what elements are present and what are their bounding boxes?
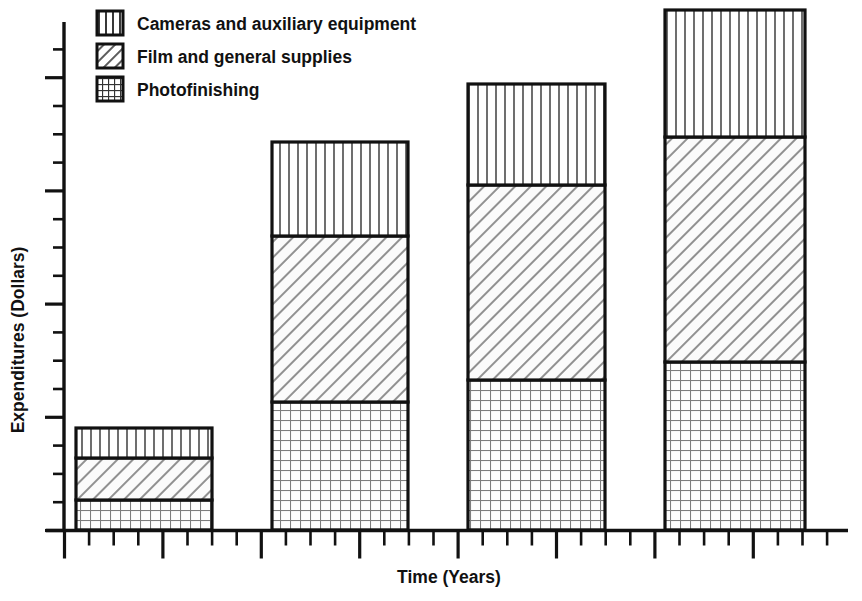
- bar-segment-cameras: [468, 84, 605, 185]
- legend-swatch-diagonal-icon: [97, 44, 123, 68]
- bar-segment-photofinishing: [272, 402, 408, 530]
- stacked-bar-chart: Cameras and auxiliary equipment Film and…: [0, 0, 862, 601]
- y-axis-title: Expenditures (Dollars): [8, 247, 28, 434]
- bar-segment-photofinishing: [468, 380, 605, 530]
- chart-legend: Cameras and auxiliary equipment Film and…: [97, 11, 416, 101]
- bar-segment-cameras: [76, 428, 212, 458]
- bar-segment-photofinishing: [76, 500, 212, 530]
- legend-label-cameras: Cameras and auxiliary equipment: [137, 14, 416, 34]
- bar-stack-year-1: [76, 428, 212, 530]
- legend-swatch-vertical-icon: [97, 11, 123, 35]
- bar-segment-film: [76, 458, 212, 500]
- legend-label-film: Film and general supplies: [137, 47, 352, 67]
- bar-segment-film: [665, 137, 805, 362]
- bar-stack-year-3: [468, 84, 605, 530]
- bar-segment-cameras: [665, 10, 805, 137]
- bar-segment-photofinishing: [665, 362, 805, 530]
- legend-item-photofinishing: Photofinishing: [97, 77, 259, 101]
- legend-swatch-grid-icon: [97, 77, 123, 101]
- legend-item-film: Film and general supplies: [97, 44, 352, 68]
- bar-segment-cameras: [272, 142, 408, 236]
- bar-stack-year-2: [272, 142, 408, 530]
- bar-segment-film: [272, 236, 408, 402]
- legend-label-photofinishing: Photofinishing: [137, 80, 259, 100]
- y-axis-ticks: [45, 49, 64, 530]
- legend-item-cameras: Cameras and auxiliary equipment: [97, 11, 416, 35]
- bar-stack-year-4: [665, 10, 805, 530]
- x-axis-ticks: [65, 531, 828, 559]
- bar-segment-film: [468, 185, 605, 380]
- chart-canvas: Cameras and auxiliary equipment Film and…: [0, 0, 862, 601]
- x-axis-title: Time (Years): [397, 567, 501, 587]
